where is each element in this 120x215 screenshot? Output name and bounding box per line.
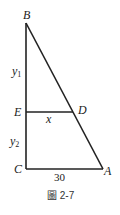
label-point-c: C (14, 162, 23, 176)
label-point-b: B (23, 8, 31, 22)
label-point-e: E (13, 105, 22, 119)
label-y1: y1 (11, 64, 21, 79)
label-point-a: A (103, 164, 112, 178)
label-base-30: 30 (54, 171, 66, 183)
label-y2: y2 (9, 134, 19, 149)
segment-ba (26, 23, 103, 169)
label-x: x (45, 112, 52, 126)
triangle-diagram: B E D C A y1 y2 x 30 圖 2-7 (0, 0, 120, 215)
figure-caption: 圖 2-7 (47, 190, 75, 201)
label-point-d: D (77, 103, 87, 117)
